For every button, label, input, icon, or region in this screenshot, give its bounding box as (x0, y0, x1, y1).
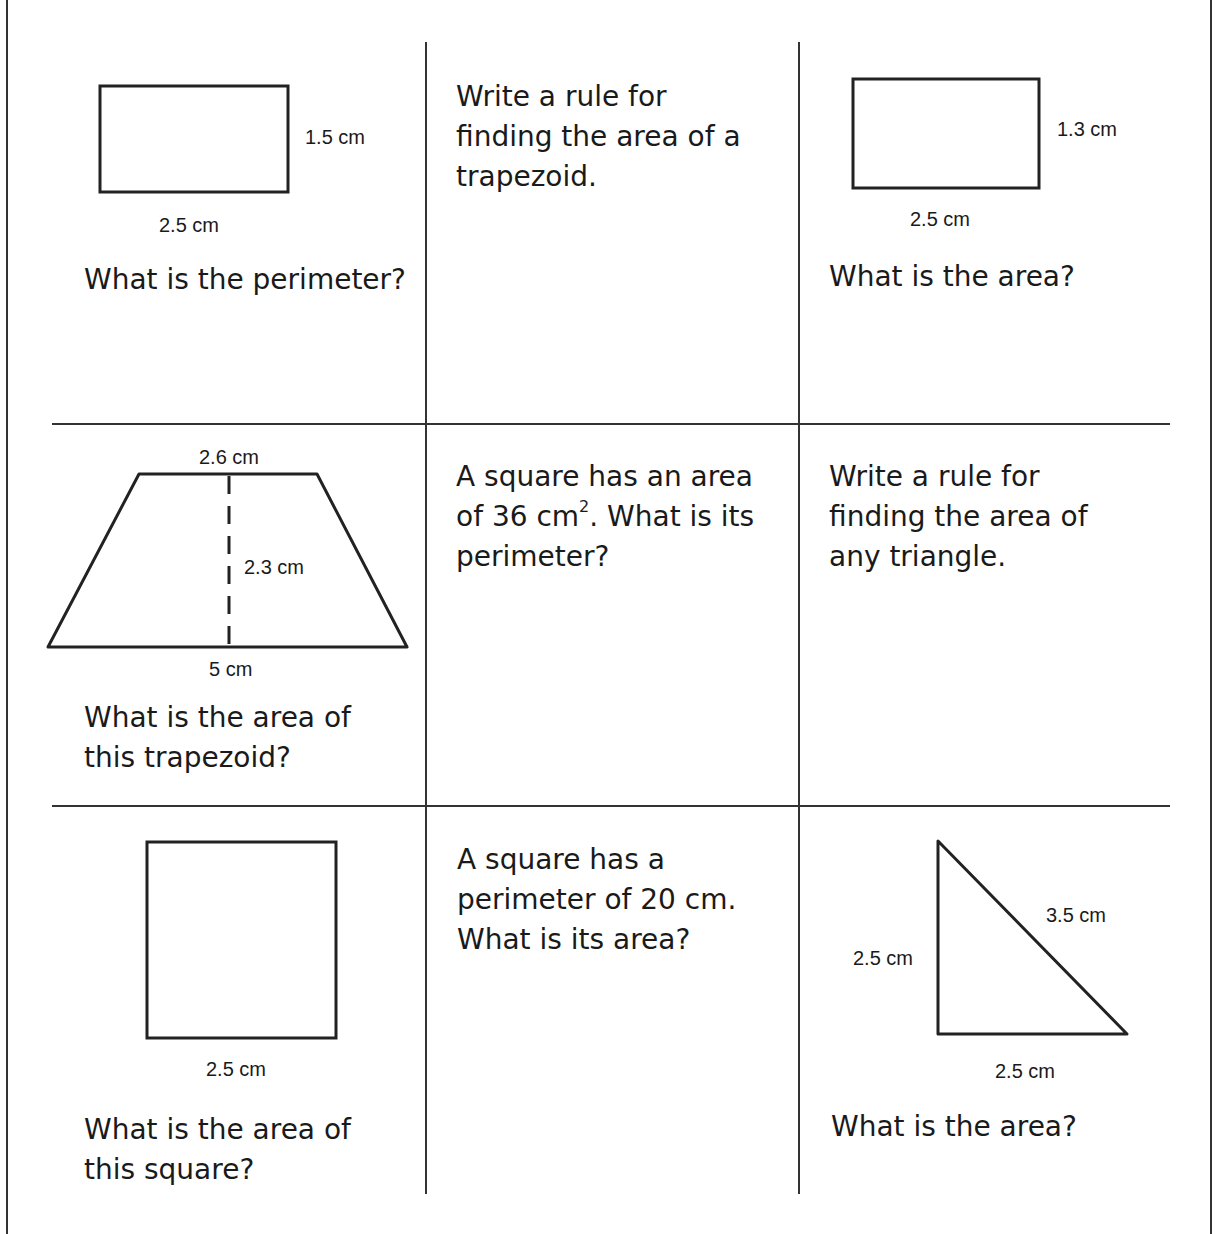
width-label: 2.5 cm (159, 214, 219, 237)
hypotenuse-label: 3.5 cm (1046, 904, 1106, 927)
question-text: What is the area of (84, 1110, 351, 1150)
question-text: this square? (84, 1150, 254, 1190)
width-label: 2.5 cm (910, 208, 970, 231)
top-base-label: 2.6 cm (199, 446, 259, 469)
question-text: Write a rule for finding the area of any… (829, 457, 1119, 577)
side-label: 2.5 cm (206, 1058, 266, 1081)
question-text: this trapezoid? (84, 738, 291, 778)
trapezoid-shape (48, 474, 407, 647)
question-text: What is the area of (84, 698, 351, 738)
rectangle-shape (100, 86, 288, 192)
bottom-base-label: 5 cm (209, 658, 252, 681)
question-text: Write a rule for finding the area of a t… (456, 77, 756, 197)
rectangle-shape (853, 79, 1039, 188)
question-text: What is the area? (831, 1107, 1161, 1147)
height-label: 1.3 cm (1057, 118, 1117, 141)
question-text: What is the perimeter? (84, 260, 414, 300)
right-triangle-shape (938, 841, 1127, 1034)
height-label: 1.5 cm (305, 126, 365, 149)
vertical-leg-label: 2.5 cm (853, 947, 913, 970)
question-text: A square has a perimeter of 20 cm. What … (457, 840, 757, 960)
question-text: A square has an area of 36 cm2. What is … (456, 457, 776, 577)
height-label: 2.3 cm (244, 556, 304, 579)
question-text: What is the area? (829, 257, 1159, 297)
square-shape (147, 842, 336, 1038)
horizontal-leg-label: 2.5 cm (995, 1060, 1055, 1083)
